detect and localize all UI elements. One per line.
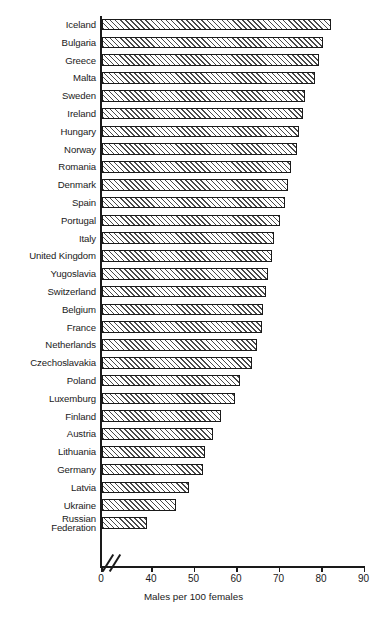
bar-category-label: Switzerland (4, 283, 96, 301)
bar-row: Malta (0, 69, 387, 87)
x-tick-label: 90 (350, 573, 378, 584)
bar (102, 54, 319, 66)
x-tick (321, 566, 323, 572)
bar (102, 410, 221, 422)
bar-row: Austria (0, 425, 387, 443)
x-tick (236, 566, 238, 572)
bar-row: Lithuania (0, 443, 387, 461)
bar-row: Ireland (0, 105, 387, 123)
bar-row: Luxemburg (0, 390, 387, 408)
bar-chart: IcelandBulgariaGreeceMaltaSwedenIrelandH… (0, 0, 387, 618)
bar (102, 375, 240, 387)
bar-category-label: Greece (4, 52, 96, 70)
x-tick (279, 566, 281, 572)
bar-category-label: Bulgaria (4, 34, 96, 52)
bar-row: Poland (0, 372, 387, 390)
x-axis-title: Males per 100 females (0, 591, 387, 602)
bar-row: Finland (0, 408, 387, 426)
bar-row: Germany (0, 461, 387, 479)
bar-row: Denmark (0, 176, 387, 194)
bar-category-label: Ukraine (4, 497, 96, 515)
bar (102, 90, 305, 102)
bar (102, 108, 303, 120)
bar-category-label: Poland (4, 372, 96, 390)
bar-row: Spain (0, 194, 387, 212)
bar-category-label: Spain (4, 194, 96, 212)
bar-row: RussianFederation (0, 514, 387, 532)
bar-row: Czechoslavakia (0, 354, 387, 372)
x-tick-label: 0 (87, 573, 115, 584)
bar (102, 321, 262, 333)
bar-category-label: Belgium (4, 301, 96, 319)
bar (102, 161, 291, 173)
bar-category-label: Lithuania (4, 443, 96, 461)
bar-row: Hungary (0, 123, 387, 141)
bar-rows: IcelandBulgariaGreeceMaltaSwedenIrelandH… (0, 16, 387, 532)
bar-category-label: Romania (4, 158, 96, 176)
bar-row: Italy (0, 230, 387, 248)
bar-category-label: Finland (4, 408, 96, 426)
bar (102, 143, 297, 155)
bar-row: Ukraine (0, 497, 387, 515)
bar (102, 357, 252, 369)
bar-category-label: Austria (4, 425, 96, 443)
bar (102, 482, 189, 494)
x-tick-label: 40 (137, 573, 165, 584)
x-tick-label: 60 (222, 573, 250, 584)
bar (102, 464, 203, 476)
bar-category-label: Luxemburg (4, 390, 96, 408)
bar-category-label: Czechoslavakia (4, 354, 96, 372)
bar-category-label: RussianFederation (4, 514, 96, 532)
axis-break-icon (104, 552, 126, 574)
bar-row: Bulgaria (0, 34, 387, 52)
bar-row: Norway (0, 141, 387, 159)
bar (102, 446, 205, 458)
bar-category-label: Norway (4, 141, 96, 159)
bar (102, 268, 268, 280)
bar (102, 393, 235, 405)
bar-category-label: Sweden (4, 87, 96, 105)
x-tick-label: 80 (307, 573, 335, 584)
bar-category-label: Hungary (4, 123, 96, 141)
x-tick (194, 566, 196, 572)
bar-category-label: Netherlands (4, 336, 96, 354)
bar (102, 286, 266, 298)
bar (102, 215, 280, 227)
bar-category-label: Ireland (4, 105, 96, 123)
bar (102, 179, 288, 191)
bar-category-label: Malta (4, 69, 96, 87)
bar (102, 339, 257, 351)
x-tick (364, 566, 366, 572)
bar (102, 250, 272, 262)
bar (102, 197, 285, 209)
bar-category-label: Italy (4, 230, 96, 248)
bar-row: Iceland (0, 16, 387, 34)
bar-category-label: Yugoslavia (4, 265, 96, 283)
bar-row: Greece (0, 52, 387, 70)
bar-row: Romania (0, 158, 387, 176)
bar-row: Portugal (0, 212, 387, 230)
bar (102, 232, 274, 244)
bar (102, 19, 331, 31)
x-tick-label: 70 (265, 573, 293, 584)
bar-row: Sweden (0, 87, 387, 105)
bar-category-label: Iceland (4, 16, 96, 34)
bar-row: Netherlands (0, 336, 387, 354)
bar-row: France (0, 319, 387, 337)
bar-category-label: Latvia (4, 479, 96, 497)
bar-row: United Kingdom (0, 247, 387, 265)
x-axis-line (100, 566, 364, 568)
bar-category-label: Portugal (4, 212, 96, 230)
plot-area: IcelandBulgariaGreeceMaltaSwedenIrelandH… (0, 0, 387, 618)
bar-category-label: Germany (4, 461, 96, 479)
bar (102, 499, 176, 511)
bar-row: Switzerland (0, 283, 387, 301)
x-tick (101, 566, 103, 572)
bar (102, 304, 263, 316)
bar (102, 72, 315, 84)
x-tick (151, 566, 153, 572)
bar-row: Latvia (0, 479, 387, 497)
bar (102, 428, 213, 440)
bar-category-label: United Kingdom (4, 247, 96, 265)
bar (102, 126, 299, 138)
